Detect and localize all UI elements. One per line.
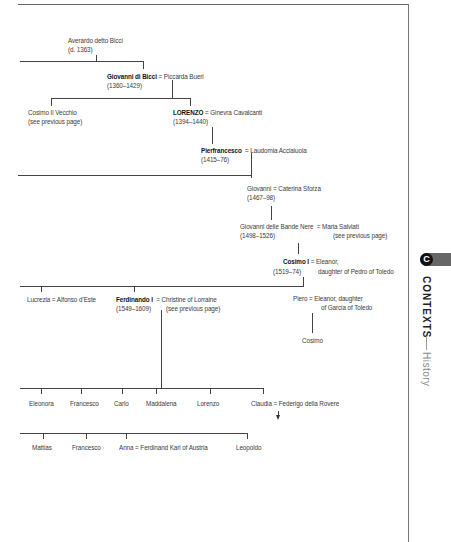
person-giovanni-di-bicci: Giovanni di Bicci = Piccarda Bueri (107, 72, 204, 81)
connector (41, 388, 42, 394)
dates-pierfrancesco: (1415–76) (201, 155, 229, 164)
person-pierfrancesco: Pierfrancesco = Laudomia Acciaiuola (201, 146, 307, 155)
connector (143, 61, 144, 69)
note-ferdinando-i: (see previous page) (166, 304, 220, 313)
person-cosimo-vecchio: Cosimo Il Vecchio (28, 108, 77, 117)
grandchild-anna: Anna = Ferdinand Karl of Austria (119, 443, 208, 452)
dates-lorenzo: (1394–1440) (173, 117, 208, 126)
dates-cosimo-i: (1519–74) (273, 267, 301, 276)
connector (20, 433, 248, 434)
child-maddalena: Maddalena (146, 399, 177, 408)
spouse: = Laudomia Acciaiuola (245, 146, 307, 155)
connector (51, 98, 191, 99)
name: LORENZO (173, 108, 203, 117)
connector (298, 243, 299, 254)
page-top-rule (18, 4, 408, 5)
person-piero: Piero = Eleanor, daughter (293, 294, 363, 303)
connector (51, 98, 52, 106)
spouse-detail-cosimo-i: daughter of Pedro of Toledo (318, 267, 394, 276)
connector (126, 433, 127, 439)
section-badge: C (420, 253, 433, 266)
name: Piero (293, 294, 307, 303)
connector (20, 61, 144, 62)
person-cosimo-i: Cosimo I = Eleanor, (283, 257, 338, 266)
connector (161, 310, 162, 388)
person-ferdinando-i: Ferdinando I = Christine of Lorraine (116, 295, 217, 304)
spouse: = Eleanor, daughter (309, 294, 363, 303)
connector (190, 98, 191, 106)
spouse: = Piccarda Bueri (159, 72, 204, 81)
person-averardo: Averardo detto Bicci (68, 36, 123, 45)
connector (86, 433, 87, 439)
spouse: = Caterina Sforza (273, 184, 321, 193)
dates-ferdinando-i: (1549–1609) (116, 304, 151, 313)
name: Cosimo I (283, 257, 309, 266)
person-giovanni-bande-nere: Giovanni delle Bande Nere = Maria Salvia… (240, 222, 359, 231)
page-right-rule (408, 4, 409, 542)
grandchild-francesco: Francesco (72, 443, 101, 452)
name: Giovanni (247, 184, 271, 193)
spouse: = Ginevra Cavalcanti (205, 108, 262, 117)
person-lucrezia: Lucrezia = Alfonso d’Este (27, 295, 96, 304)
subsection-label: History (421, 352, 432, 387)
connector (81, 388, 82, 394)
note-cosimo-vecchio: (see previous page) (28, 117, 82, 126)
note-giovanni-bande-nere: (see previous page) (333, 231, 387, 240)
connector (212, 127, 213, 144)
dates-giovanni: (1467–98) (247, 193, 275, 202)
child-carlo: Carlo (114, 399, 129, 408)
connector (41, 286, 42, 292)
dates-giovanni-di-bicci: (1360–1429) (107, 81, 142, 90)
child-claudia: Claudia = Federigo della Rovere (251, 399, 339, 408)
connector (134, 286, 135, 292)
section-separator (426, 336, 427, 350)
dates-averardo: (d. 1363) (68, 45, 93, 54)
connector (172, 80, 173, 98)
person-cosimo: Cosimo (302, 336, 323, 345)
connector (247, 433, 248, 439)
dates-giovanni-bande-nere: (1498–1526) (240, 231, 275, 240)
connector (122, 388, 123, 394)
person-lorenzo: LORENZO = Ginevra Cavalcanti (173, 108, 262, 117)
connector (271, 206, 272, 220)
spouse: = Eleanor, (311, 257, 339, 266)
arrow-down-icon (276, 415, 280, 420)
connector (20, 286, 304, 287)
connector (43, 433, 44, 439)
connector (210, 388, 211, 394)
connector (263, 388, 264, 394)
grandchild-leopoldo: Leopoldo (236, 443, 261, 452)
name: Giovanni delle Bande Nere (240, 222, 313, 231)
connector (20, 388, 264, 389)
connector (18, 175, 252, 176)
name: Giovanni di Bicci (107, 72, 157, 81)
child-francesco: Francesco (70, 399, 99, 408)
name: Pierfrancesco (201, 146, 242, 155)
spouse: = Maria Salviati (317, 222, 359, 231)
name: Ferdinando I (116, 295, 153, 304)
connector (156, 388, 157, 394)
section-label: CONTEXTS (421, 276, 432, 338)
person-giovanni: Giovanni = Caterina Sforza (247, 184, 321, 193)
spouse: = Christine of Lorraine (156, 295, 216, 304)
grandchild-mattias: Mattias (32, 443, 52, 452)
spouse-detail-piero: of Garcia of Toledo (321, 303, 372, 312)
child-eleonora: Eleonora (29, 399, 54, 408)
child-lorenzo: Lorenzo (197, 399, 219, 408)
connector (312, 313, 313, 333)
